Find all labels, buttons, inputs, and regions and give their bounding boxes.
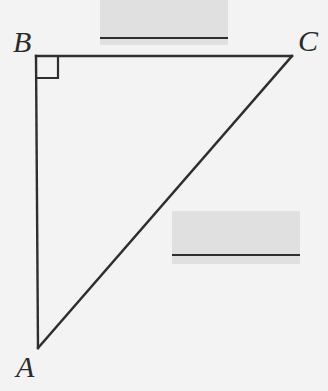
vertex-label-b: B — [13, 27, 31, 57]
vertex-label-a: A — [16, 352, 34, 382]
right-angle-marker-icon — [36, 56, 58, 78]
middle-measure-underline — [172, 254, 300, 256]
side-ab-line — [36, 56, 38, 348]
geometry-figure: B C A — [0, 0, 328, 391]
middle-redacted-label-block — [172, 211, 300, 264]
top-measure-underline — [100, 37, 228, 39]
triangle-drawing — [0, 0, 328, 391]
side-ac-hypotenuse-line — [38, 56, 292, 348]
vertex-label-c: C — [298, 26, 318, 56]
